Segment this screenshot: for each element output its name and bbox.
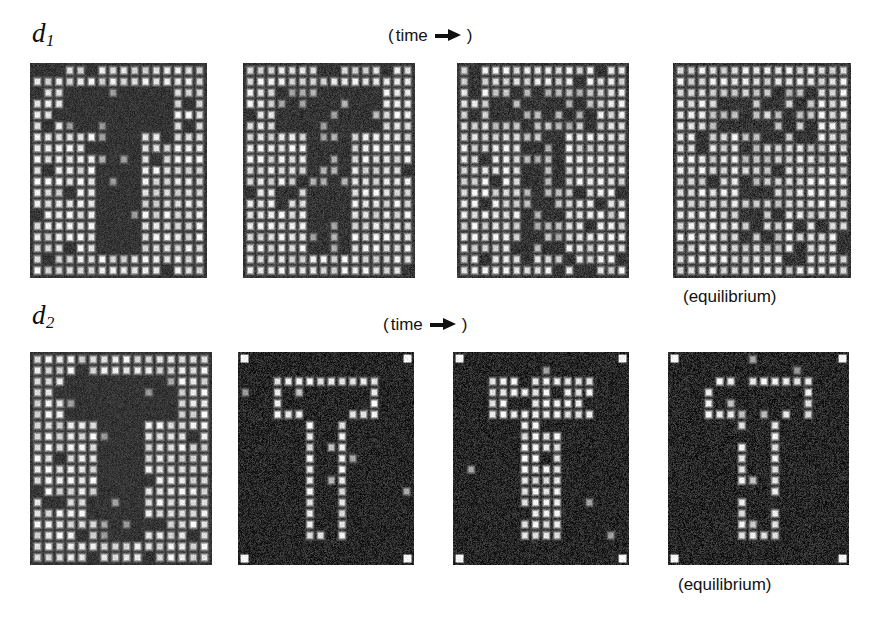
lattice-canvas-d2-t2 (453, 352, 629, 565)
lattice-panel-d2-t0 (30, 352, 212, 565)
lattice-canvas-d1-t0 (30, 63, 207, 278)
right-arrow-icon (435, 29, 461, 42)
right-arrow-icon (430, 318, 456, 331)
lattice-panel-d1-t0 (30, 63, 207, 278)
row-label-d1-letter: d (32, 18, 46, 48)
time-caption-word: time (396, 27, 428, 44)
lattice-canvas-d1-t3 (673, 63, 851, 278)
lattice-panel-d1-t3 (673, 63, 851, 278)
lattice-canvas-d1-t2 (457, 63, 629, 278)
row-label-d2-subscript: 2 (46, 313, 54, 332)
lattice-canvas-d2-t1 (238, 352, 414, 565)
equilibrium-caption-row1: (equilibrium) (683, 288, 777, 305)
lattice-panel-d2-t1 (238, 352, 414, 565)
lattice-panel-d1-t1 (243, 63, 415, 278)
equilibrium-caption-row2: (equilibrium) (678, 576, 772, 593)
time-caption-close-paren: ) (462, 316, 468, 333)
lattice-canvas-d2-t3 (668, 352, 849, 565)
time-caption-open-paren: ( (388, 27, 394, 44)
row-label-d2: d2 (32, 302, 54, 332)
row-label-d1: d1 (32, 20, 54, 50)
time-caption-row1: (time) (388, 27, 472, 44)
lattice-canvas-d1-t1 (243, 63, 415, 278)
row-label-d2-letter: d (32, 300, 46, 330)
lattice-canvas-d2-t0 (30, 352, 212, 565)
lattice-panel-d2-t3 (668, 352, 849, 565)
lattice-panel-d2-t2 (453, 352, 629, 565)
time-caption-row2: (time) (383, 316, 467, 333)
lattice-panel-d1-t2 (457, 63, 629, 278)
row-label-d1-subscript: 1 (46, 31, 54, 50)
time-caption-open-paren: ( (383, 316, 389, 333)
time-caption-word: time (391, 316, 423, 333)
time-caption-close-paren: ) (467, 27, 473, 44)
figure-root: d1 (time) (equilibrium) d2 (time) (equil… (0, 0, 871, 625)
